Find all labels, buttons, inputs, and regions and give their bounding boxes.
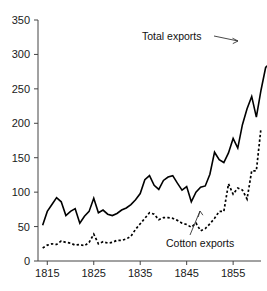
x-tick-labels: 18151825183518451855 <box>35 267 245 279</box>
x-tick-label-1845: 1845 <box>174 267 198 279</box>
total-exports-label: Total exports <box>142 30 202 42</box>
series-line-cotton-exports <box>43 128 261 248</box>
cotton-exports-annotation: Cotton exports <box>166 211 234 249</box>
series-line-total-exports <box>43 30 267 225</box>
y-tick-labels: 050100150200250300350 <box>12 14 30 267</box>
x-tick-label-1815: 1815 <box>35 267 59 279</box>
exports-line-chart: 050100150200250300350 181518251835184518… <box>0 0 267 291</box>
y-tick-label-300: 300 <box>12 48 30 60</box>
x-tick-label-1855: 1855 <box>221 267 245 279</box>
cotton-exports-label: Cotton exports <box>166 237 234 249</box>
total-exports-leader-line <box>214 36 238 41</box>
y-tick-label-0: 0 <box>24 255 30 267</box>
y-tick-label-100: 100 <box>12 186 30 198</box>
x-tick-marks <box>47 261 233 265</box>
y-tick-label-50: 50 <box>18 221 30 233</box>
x-tick-label-1835: 1835 <box>128 267 152 279</box>
y-tick-label-200: 200 <box>12 117 30 129</box>
y-axis-group: 050100150200250300350 <box>12 14 38 267</box>
chart-canvas: 050100150200250300350 181518251835184518… <box>0 0 267 291</box>
y-tick-label-150: 150 <box>12 152 30 164</box>
x-axis-group: 18151825183518451855 <box>35 261 261 279</box>
total-exports-arrowhead <box>233 38 239 43</box>
x-tick-label-1825: 1825 <box>82 267 106 279</box>
total-exports-annotation: Total exports <box>142 30 238 44</box>
cotton-exports-arrowhead <box>198 211 203 217</box>
y-tick-label-250: 250 <box>12 83 30 95</box>
y-tick-marks <box>34 20 38 261</box>
y-tick-label-350: 350 <box>12 14 30 26</box>
